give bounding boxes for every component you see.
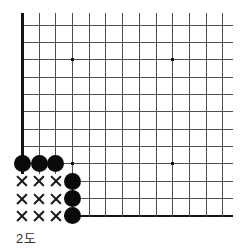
grid-line-vertical xyxy=(89,13,90,217)
territory-x-mark-icon xyxy=(51,193,62,204)
territory-x-mark-icon xyxy=(34,193,45,204)
grid-line-vertical xyxy=(122,13,123,217)
diagram-caption: 2도 xyxy=(16,228,36,247)
territory-x-mark-icon xyxy=(34,211,45,222)
grid-line-vertical xyxy=(222,13,223,217)
star-point xyxy=(171,58,174,61)
territory-x-mark-icon xyxy=(34,176,45,187)
black-stone xyxy=(64,207,81,224)
grid-line-vertical xyxy=(139,13,140,217)
black-stone xyxy=(64,190,81,207)
star-point xyxy=(71,162,74,165)
grid-line-vertical xyxy=(189,13,190,217)
territory-x-mark-icon xyxy=(17,193,28,204)
territory-x-mark-icon xyxy=(17,211,28,222)
star-point xyxy=(71,58,74,61)
star-point xyxy=(171,162,174,165)
black-stone xyxy=(47,155,64,172)
black-stone xyxy=(64,173,81,190)
go-board xyxy=(0,0,247,250)
territory-x-mark-icon xyxy=(51,176,62,187)
grid-line-horizontal xyxy=(21,111,233,112)
grid-line-horizontal xyxy=(21,77,233,78)
territory-x-mark-icon xyxy=(17,176,28,187)
grid-line-horizontal xyxy=(21,59,233,60)
grid-line-vertical xyxy=(105,13,106,217)
grid-line-horizontal xyxy=(21,42,233,43)
black-stone xyxy=(14,155,31,172)
go-diagram-figure: 2도 xyxy=(0,0,247,250)
grid-line-vertical xyxy=(172,13,173,217)
grid-line-horizontal xyxy=(21,25,233,26)
grid-line-horizontal xyxy=(21,129,233,130)
grid-line-vertical xyxy=(156,13,157,217)
grid-line-horizontal xyxy=(21,94,233,95)
grid-line-horizontal xyxy=(21,146,233,147)
territory-x-mark-icon xyxy=(51,211,62,222)
black-stone xyxy=(31,155,48,172)
grid-line-vertical xyxy=(206,13,207,217)
